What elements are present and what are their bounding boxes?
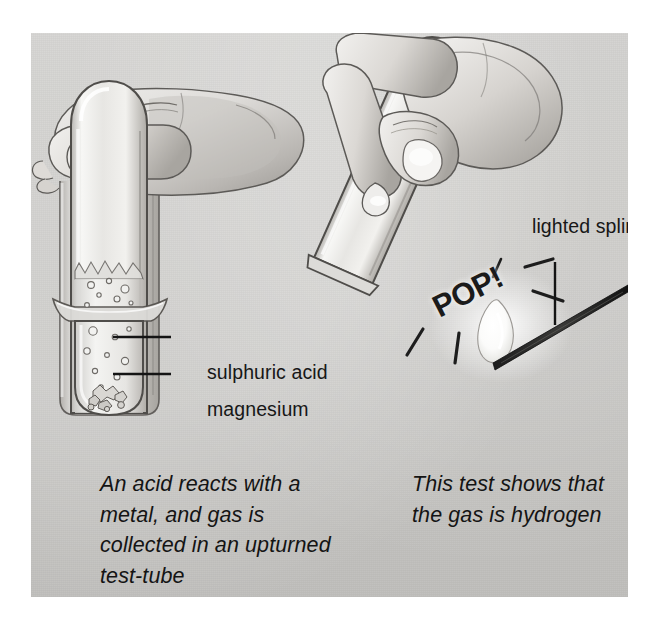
label-magnesium: magnesium [207, 400, 309, 420]
caption-right: This test shows that the gas is hydrogen [412, 469, 612, 530]
illustration-panel: sulphuric acid magnesium lighted splint … [31, 33, 628, 597]
right-scene [304, 33, 628, 383]
caption-left: An acid reacts with a metal, and gas is … [100, 469, 340, 591]
label-sulphuric-acid: sulphuric acid [207, 363, 328, 383]
right-hand [323, 33, 562, 216]
figure-root: sulphuric acid magnesium lighted splint … [0, 0, 659, 621]
test-tube-lower [75, 321, 143, 415]
label-lighted-splint: lighted splint [532, 215, 628, 239]
